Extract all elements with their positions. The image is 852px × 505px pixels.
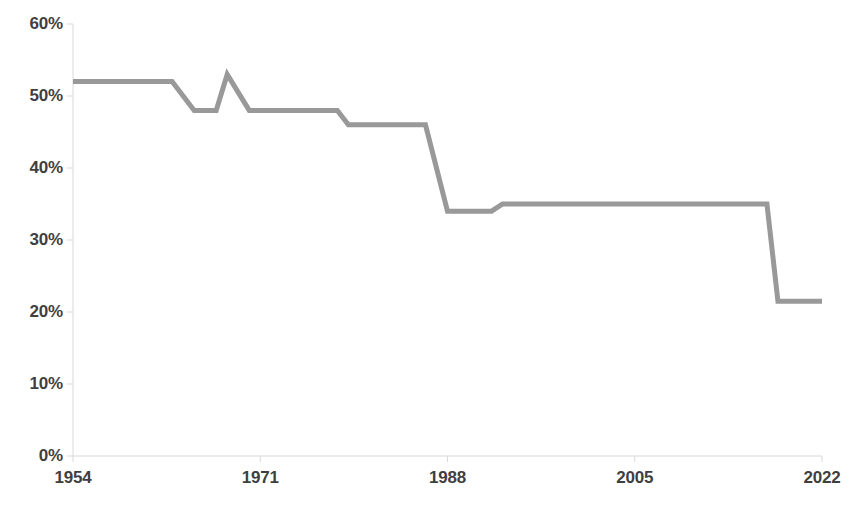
chart-plot-area [0, 0, 852, 505]
y-axis-tick-marks [67, 24, 73, 456]
data-series-layer [73, 74, 822, 301]
y-axis-tick-label: 40% [0, 158, 63, 178]
y-axis-tick-label: 10% [0, 374, 63, 394]
x-axis-tick-label: 1954 [54, 468, 91, 488]
chart-container: 0%10%20%30%40%50%60% 1954197119882005202… [0, 0, 852, 505]
y-axis-tick-label: 20% [0, 302, 63, 322]
y-axis-tick-label: 0% [0, 446, 63, 466]
x-axis-tick-label: 2022 [803, 468, 840, 488]
data-line-1 [73, 74, 822, 301]
x-axis-tick-label: 2005 [616, 468, 653, 488]
x-axis-tick-marks [73, 456, 822, 462]
x-axis-tick-label: 1971 [242, 468, 279, 488]
y-axis-tick-label: 60% [0, 14, 63, 34]
y-axis-tick-label: 30% [0, 230, 63, 250]
y-axis-tick-label: 50% [0, 86, 63, 106]
x-axis-tick-label: 1988 [429, 468, 466, 488]
